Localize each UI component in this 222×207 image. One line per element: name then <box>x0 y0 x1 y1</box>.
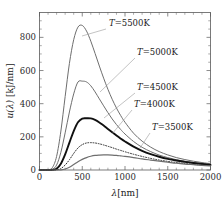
x-tick-label: 1000 <box>114 172 136 182</box>
label-value: =3500K <box>158 122 194 132</box>
label-value: =5500K <box>115 18 151 28</box>
label-value: =5000K <box>143 47 179 57</box>
x-tick-label: 500 <box>74 172 90 182</box>
y-title-symbol: u(λ) <box>5 99 15 118</box>
y-tick-label: 400 <box>20 99 36 109</box>
series-label-T3500K: T=3500K <box>152 122 193 132</box>
series-label-T4000K: T=4000K <box>134 99 175 109</box>
label-value: =4000K <box>140 99 176 109</box>
x-tick-label: 0 <box>37 172 42 182</box>
blackbody-radiation-chart: 0500100015002000 0200400600800 T=5500KT=… <box>0 0 222 207</box>
x-title-symbol: λ <box>110 188 117 198</box>
y-tick-label: 800 <box>20 32 36 42</box>
y-tick-label: 200 <box>20 132 36 142</box>
x-tick-label: 1500 <box>157 172 179 182</box>
series-label-T5000K: T=5000K <box>137 47 178 57</box>
x-axis-title: λ[nm] <box>110 188 138 198</box>
series-label-T4500K: T=4500K <box>137 82 178 92</box>
y-tick-label: 0 <box>31 165 36 175</box>
series-label-T5500K: T=5500K <box>109 18 150 28</box>
x-title-unit: [nm] <box>117 188 138 198</box>
x-tick-label: 2000 <box>200 172 222 182</box>
plot-canvas: 0500100015002000 0200400600800 T=5500KT=… <box>0 0 222 207</box>
label-value: =4500K <box>143 82 179 92</box>
y-tick-label: 600 <box>20 66 36 76</box>
y-title-unit: [kJ/nm] <box>5 64 15 100</box>
y-axis-title: u(λ) [kJ/nm] <box>5 64 15 119</box>
